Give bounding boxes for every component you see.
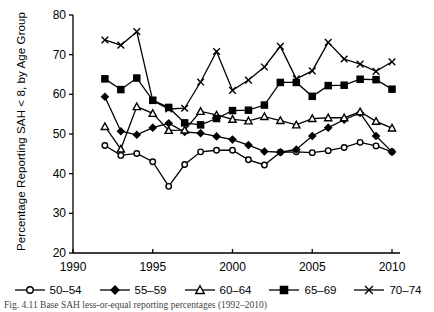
x-axis-tick-label: 1990 — [60, 260, 87, 274]
data-point — [341, 82, 347, 88]
data-point — [357, 76, 363, 82]
data-point — [102, 76, 108, 82]
legend-item-50-54[interactable]: 50–54 — [13, 283, 82, 297]
data-point — [229, 87, 236, 94]
legend-item-65-69[interactable]: 65–69 — [267, 283, 336, 297]
data-point — [133, 103, 140, 110]
data-point — [389, 86, 395, 92]
chart-legend: 50–5455–5960–6465–6970–74 — [0, 281, 434, 299]
x-axis-tick-label: 1995 — [139, 260, 166, 274]
data-point — [372, 118, 379, 125]
series-70-74 — [102, 28, 396, 112]
data-point — [245, 107, 251, 113]
y-axis-tick-label: 50 — [53, 127, 67, 141]
data-point — [341, 114, 348, 121]
data-point — [134, 75, 140, 81]
legend-marker-glyph — [111, 286, 119, 294]
data-point — [373, 68, 380, 75]
data-point — [149, 124, 156, 131]
data-point — [309, 68, 316, 75]
legend-item-label: 55–59 — [135, 284, 167, 296]
data-point — [373, 77, 379, 83]
data-point — [229, 108, 235, 114]
data-point — [149, 110, 156, 117]
data-point — [245, 77, 252, 84]
y-axis-tick-label: 20 — [53, 246, 67, 260]
data-point — [133, 131, 140, 138]
data-point — [341, 145, 347, 151]
data-point — [118, 153, 124, 159]
legend-item-55-59[interactable]: 55–59 — [98, 283, 167, 297]
data-point — [166, 184, 172, 190]
data-point — [261, 64, 268, 71]
data-point — [309, 150, 315, 156]
data-point — [230, 148, 236, 154]
data-point — [325, 124, 332, 131]
data-point — [213, 133, 220, 140]
data-point — [182, 162, 188, 168]
chart-plot-area: 2030405060708019901995200020052010 — [0, 0, 434, 312]
data-point — [118, 87, 124, 93]
figure-caption: Fig. 4.11 Base SAH less-or-equal reporti… — [4, 300, 434, 310]
legend-marker-open-circle — [13, 283, 47, 297]
data-point — [101, 123, 108, 130]
y-axis-tick-label: 70 — [53, 48, 67, 62]
data-point — [197, 130, 204, 137]
data-point — [214, 148, 220, 154]
data-point — [102, 37, 109, 44]
data-point — [102, 143, 108, 149]
data-series-group — [101, 28, 395, 189]
series-line — [105, 32, 392, 109]
data-point — [309, 115, 316, 122]
data-point — [150, 159, 156, 165]
data-point — [309, 93, 315, 99]
data-point — [102, 93, 109, 100]
data-point — [261, 113, 268, 120]
data-point — [325, 83, 331, 89]
data-point — [197, 79, 204, 86]
data-point — [245, 117, 252, 124]
data-point — [293, 121, 300, 128]
y-axis-tick-label: 60 — [53, 87, 67, 101]
data-point — [229, 136, 236, 143]
y-axis-tick-label: 80 — [53, 8, 67, 22]
data-point — [118, 42, 125, 49]
data-point — [213, 48, 220, 55]
data-point — [356, 108, 363, 115]
legend-item-label: 50–54 — [50, 284, 82, 296]
legend-item-label: 60–64 — [220, 284, 252, 296]
data-point — [389, 58, 396, 65]
data-point — [118, 128, 125, 135]
legend-marker-cross — [352, 283, 386, 297]
data-point — [341, 56, 348, 63]
data-point — [245, 142, 252, 149]
data-point — [388, 124, 395, 131]
data-point — [229, 116, 236, 123]
legend-marker-glyph — [281, 286, 288, 293]
legend-item-label: 70–74 — [389, 284, 421, 296]
data-point — [373, 143, 379, 149]
legend-item-70-74[interactable]: 70–74 — [352, 283, 421, 297]
data-point — [325, 114, 332, 121]
data-point — [325, 148, 331, 154]
data-point — [214, 115, 220, 121]
data-point — [357, 140, 363, 146]
x-axis-tick-label: 2000 — [219, 260, 246, 274]
data-point — [246, 157, 252, 163]
data-point — [261, 148, 268, 155]
x-axis-tick-label: 2010 — [379, 260, 406, 274]
x-axis-tick-label: 2005 — [299, 260, 326, 274]
data-point — [182, 120, 188, 126]
data-point — [198, 149, 204, 155]
data-point — [277, 117, 284, 124]
data-point — [325, 39, 332, 46]
data-point — [261, 102, 267, 108]
legend-item-label: 65–69 — [304, 284, 336, 296]
data-point — [134, 151, 140, 157]
axes-group: 2030405060708019901995200020052010 — [53, 8, 406, 274]
legend-item-60-64[interactable]: 60–64 — [183, 283, 252, 297]
legend-marker-filled-diamond — [98, 283, 132, 297]
data-point — [277, 79, 283, 85]
data-point — [357, 61, 364, 68]
data-point — [197, 108, 204, 115]
